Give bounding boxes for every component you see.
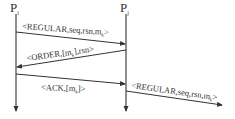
message-order: <ORDER,[mk],rsn> bbox=[17, 44, 126, 67]
message-ack: <ACK,[mk]> bbox=[16, 74, 125, 95]
process-pi: Pi bbox=[10, 0, 19, 111]
message-regular-2-label: <REGULAR,seq,rsn,mk> bbox=[131, 80, 219, 103]
message-order-label: <ORDER,[mk],rsn> bbox=[26, 44, 95, 64]
process-pj: Pj bbox=[120, 0, 129, 111]
process-pi-label: Pi bbox=[10, 0, 19, 16]
sequence-diagram: Pi Pj <REGULAR,seq,rsn,mk> <ORDER,[mk],r… bbox=[0, 0, 235, 119]
process-pj-label: Pj bbox=[120, 0, 129, 16]
message-regular-1-label: <REGULAR,seq,rsn,mk> bbox=[22, 21, 110, 38]
message-regular-1: <REGULAR,seq,rsn,mk> bbox=[16, 21, 125, 44]
message-ack-label: <ACK,[mk]> bbox=[41, 82, 86, 95]
message-regular-2: <REGULAR,seq,rsn,mk> bbox=[126, 80, 222, 105]
